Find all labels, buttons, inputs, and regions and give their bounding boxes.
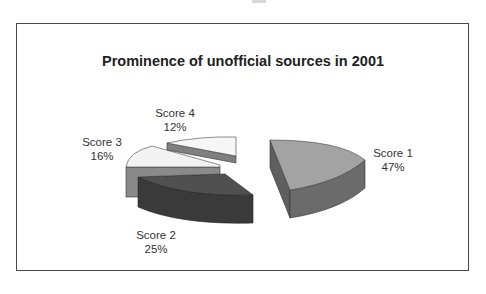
label-score-2-name: Score 2: [131, 228, 181, 242]
label-score-3-pct: 16%: [77, 149, 127, 163]
label-score-3: Score 3 16%: [77, 135, 127, 163]
label-score-3-name: Score 3: [77, 135, 127, 149]
label-score-1-pct: 47%: [368, 160, 418, 174]
label-score-2-pct: 25%: [131, 242, 181, 256]
label-score-4: Score 4 12%: [150, 106, 200, 134]
slice-score-2: [138, 174, 253, 223]
label-score-1-name: Score 1: [368, 146, 418, 160]
label-score-2: Score 2 25%: [131, 228, 181, 256]
label-score-4-pct: 12%: [150, 120, 200, 134]
slice-score-1: [270, 140, 365, 218]
label-score-1: Score 1 47%: [368, 146, 418, 174]
label-score-4-name: Score 4: [150, 106, 200, 120]
